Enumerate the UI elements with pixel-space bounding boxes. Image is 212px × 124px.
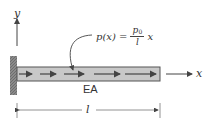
formula-tail: x (147, 31, 153, 42)
formula-denominator: l (136, 38, 139, 47)
x-axis-label: x (196, 68, 202, 79)
bar-diagram: y x EA l p(x) = p0 l x (0, 0, 212, 124)
formula-lhs: p(x) = (96, 31, 127, 42)
formula-leader-line (70, 35, 92, 70)
load-formula: p(x) = p0 l x (96, 26, 153, 47)
stiffness-label: EA (83, 84, 98, 95)
formula-fraction: p0 l (130, 26, 144, 47)
diagram-graphics (0, 0, 212, 124)
wall-support (10, 56, 17, 95)
y-axis-label: y (14, 8, 20, 19)
length-label: l (86, 104, 90, 115)
formula-numerator-sub: 0 (138, 28, 142, 35)
